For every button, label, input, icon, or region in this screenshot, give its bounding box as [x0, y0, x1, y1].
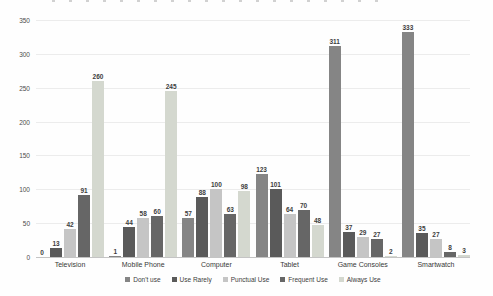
- bar: 48: [312, 225, 324, 258]
- bar-value-label: 98: [241, 183, 248, 190]
- bar-value-label: 27: [373, 231, 380, 238]
- legend-item: Punctual Use: [223, 276, 270, 283]
- legend-item: Don't use: [125, 276, 160, 283]
- plot-area: 0134291260Television1445860245Mobile Pho…: [36, 20, 470, 257]
- category-label: Television: [36, 261, 104, 268]
- bar: 44: [123, 227, 135, 257]
- legend-swatch-icon: [172, 277, 177, 282]
- bar-value-label: 8: [448, 244, 452, 251]
- bar-value-label: 1: [113, 248, 117, 255]
- bar-value-label: 260: [93, 73, 104, 80]
- bar: 27: [430, 239, 442, 257]
- bar: 123: [256, 174, 268, 257]
- bar-value-label: 57: [185, 210, 192, 217]
- bar: 3: [458, 255, 470, 257]
- bar: 29: [357, 237, 369, 257]
- bar-value-label: 48: [314, 217, 321, 224]
- legend-item: Use Rarely: [172, 276, 212, 283]
- y-tick-label: 0: [0, 254, 30, 261]
- legend: Don't useUse RarelyPunctual UseFrequent …: [36, 276, 470, 283]
- legend-label: Always Use: [347, 276, 381, 283]
- category-label: Smartwatch: [402, 261, 470, 268]
- y-tick-label: 250: [0, 84, 30, 91]
- category-label: Tablet: [256, 261, 324, 268]
- bar: 64: [284, 214, 296, 257]
- bar-value-label: 91: [80, 187, 87, 194]
- legend-swatch-icon: [125, 277, 130, 282]
- bar: 42: [64, 229, 76, 257]
- bar-value-label: 311: [330, 38, 341, 45]
- legend-label: Use Rarely: [180, 276, 212, 283]
- legend-item: Always Use: [339, 276, 381, 283]
- bar: 333: [402, 32, 414, 257]
- legend-label: Frequent Use: [288, 276, 327, 283]
- category-group-smartwatch: 333352783Smartwatch: [402, 20, 470, 257]
- legend-swatch-icon: [339, 277, 344, 282]
- bar-value-label: 44: [126, 219, 133, 226]
- bar-value-label: 70: [300, 202, 307, 209]
- legend-swatch-icon: [280, 277, 285, 282]
- y-tick-label: 350: [0, 17, 30, 24]
- bar-value-label: 64: [286, 206, 293, 213]
- bar-value-label: 88: [199, 189, 206, 196]
- category-label: Game Consoles: [329, 261, 397, 268]
- bar-value-label: 3: [462, 247, 466, 254]
- category-label: Mobile Phone: [109, 261, 177, 268]
- legend-label: Don't use: [133, 276, 160, 283]
- bar: 57: [182, 218, 194, 257]
- bar: 27: [371, 239, 383, 257]
- bar-value-label: 27: [432, 231, 439, 238]
- bar-value-label: 60: [154, 208, 161, 215]
- category-group-tablet: 123101647048Tablet: [256, 20, 324, 257]
- y-tick-label: 100: [0, 186, 30, 193]
- bar-value-label: 35: [418, 225, 425, 232]
- bar: 63: [224, 214, 236, 257]
- category-group-computer: 57881006398Computer: [182, 20, 250, 257]
- legend-item: Frequent Use: [280, 276, 327, 283]
- bar: 101: [270, 189, 282, 257]
- bar: 60: [151, 216, 163, 257]
- x-axis-line: [36, 257, 470, 258]
- bar-value-label: 245: [166, 83, 177, 90]
- bar-value-label: 29: [359, 229, 366, 236]
- bar-value-label: 42: [66, 221, 73, 228]
- bar: 35: [416, 233, 428, 257]
- legend-swatch-icon: [223, 277, 228, 282]
- bar: 91: [78, 195, 90, 257]
- bar: 8: [444, 252, 456, 257]
- category-group-mobile-phone: 1445860245Mobile Phone: [109, 20, 177, 257]
- bar-value-label: 123: [256, 166, 267, 173]
- bar: 37: [343, 232, 355, 257]
- bar: 1: [109, 256, 121, 257]
- legend-label: Punctual Use: [231, 276, 270, 283]
- bar-value-label: 101: [270, 181, 281, 188]
- y-tick-label: 200: [0, 118, 30, 125]
- bar-value-label: 58: [140, 210, 147, 217]
- bar: 58: [137, 218, 149, 257]
- bar: 260: [92, 81, 104, 257]
- bar-value-label: 13: [52, 240, 59, 247]
- y-tick-label: 50: [0, 220, 30, 227]
- bar: 13: [50, 248, 62, 257]
- bar: 88: [196, 197, 208, 257]
- bar-value-label: 100: [211, 181, 222, 188]
- category-label: Computer: [182, 261, 250, 268]
- bar: 98: [238, 191, 250, 257]
- category-group-television: 0134291260Television: [36, 20, 104, 257]
- bar: 2: [385, 256, 397, 257]
- y-tick-label: 150: [0, 152, 30, 159]
- bar-value-label: 2: [389, 248, 393, 255]
- bar: 245: [165, 91, 177, 257]
- bar-chart: 050100150200250300350 0134291260Televisi…: [0, 0, 493, 296]
- bar-value-label: 37: [345, 224, 352, 231]
- bar-value-label: 333: [403, 24, 414, 31]
- bar-value-label: 0: [40, 249, 44, 256]
- bar: 100: [210, 189, 222, 257]
- bar: 70: [298, 210, 310, 257]
- cropped-title-remnant: [52, 0, 382, 2]
- bar-value-label: 63: [227, 206, 234, 213]
- y-tick-label: 300: [0, 50, 30, 57]
- category-group-game-consoles: 3113729272Game Consoles: [329, 20, 397, 257]
- bar: 311: [329, 46, 341, 257]
